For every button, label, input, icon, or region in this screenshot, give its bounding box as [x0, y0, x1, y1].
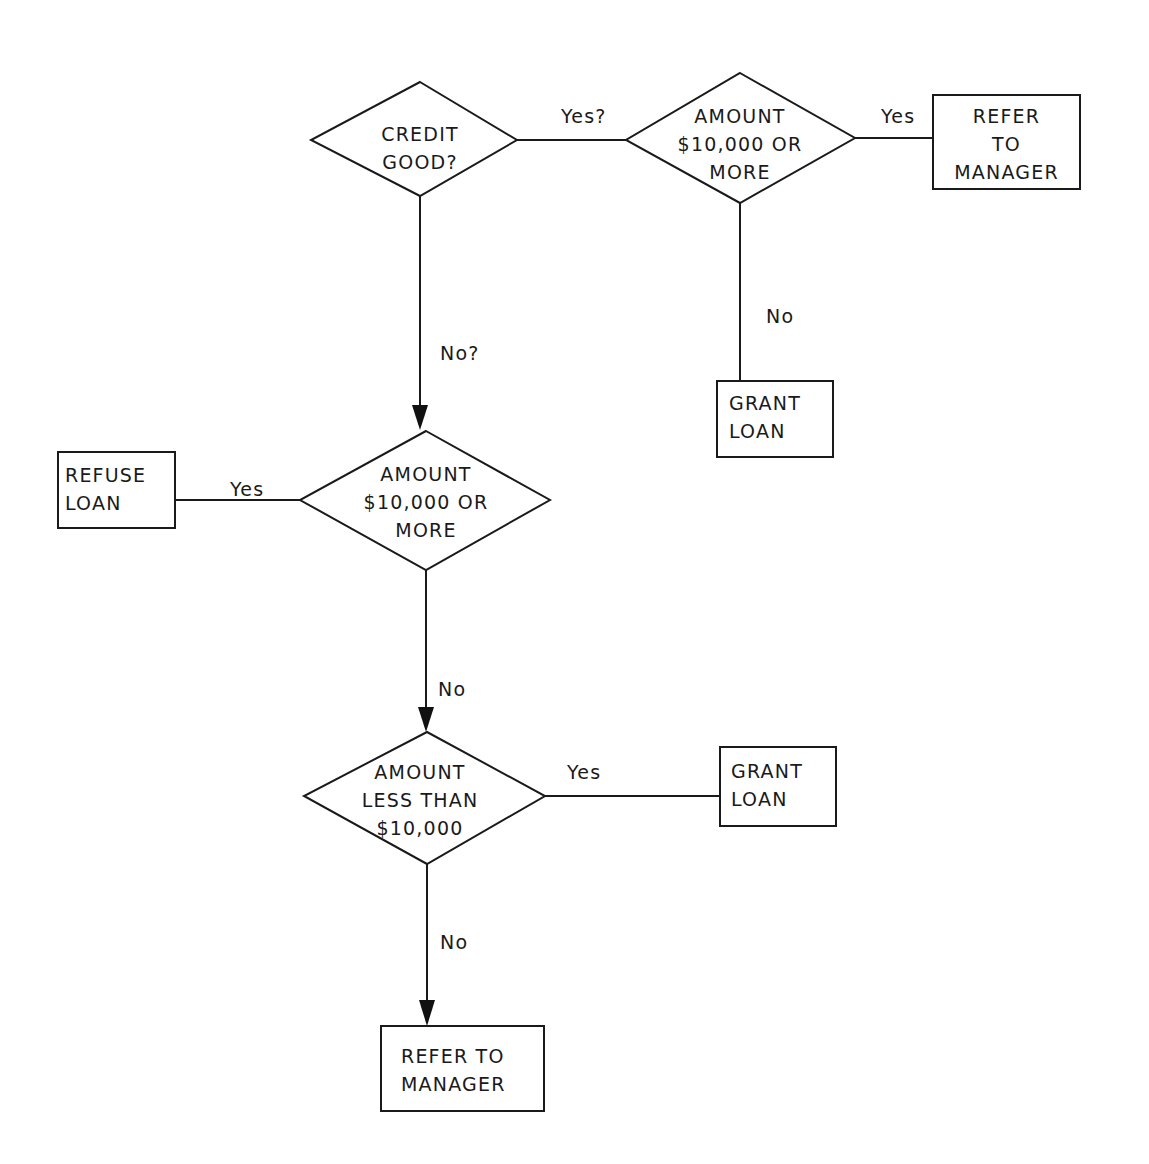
label-amount-less: AMOUNT LESS THAN $10,000: [340, 758, 500, 842]
edge-label-no-q: No?: [440, 339, 480, 367]
arrowhead-down-icon: [418, 707, 434, 732]
edge-label-no-mid: No: [438, 675, 466, 703]
label-refer-top: REFER TO MANAGER: [933, 102, 1080, 186]
arrowhead-down-icon: [419, 1000, 435, 1026]
label-amount-top: AMOUNT $10,000 OR MORE: [660, 102, 820, 186]
label-refer-bottom: REFER TO MANAGER: [401, 1042, 506, 1098]
edge-label-yes-less: Yes: [567, 758, 601, 786]
edge-label-no-top: No: [766, 302, 794, 330]
label-refuse: REFUSE LOAN: [65, 461, 146, 517]
label-credit-good: CREDIT GOOD?: [340, 120, 500, 176]
label-grant-top: GRANT LOAN: [729, 389, 801, 445]
arrowhead-down-icon: [412, 405, 428, 430]
edge-label-yes-top: Yes: [881, 102, 915, 130]
label-amount-mid: AMOUNT $10,000 OR MORE: [346, 460, 506, 544]
label-grant-bottom: GRANT LOAN: [731, 757, 803, 813]
edge-label-no-less: No: [440, 928, 468, 956]
edge-label-yes-mid: Yes: [230, 475, 264, 503]
edge-label-yes-q: Yes?: [561, 102, 607, 130]
